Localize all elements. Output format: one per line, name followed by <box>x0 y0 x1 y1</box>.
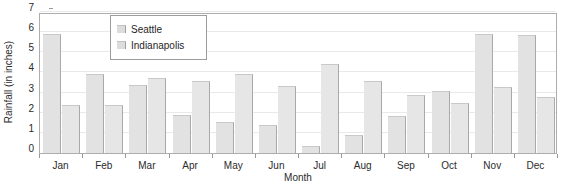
x-tick-label-jun: Jun <box>268 160 284 172</box>
bar-jun-seattle <box>259 125 277 153</box>
bar-jun-indianapolis <box>278 86 296 153</box>
legend-item-seattle: Seattle <box>117 21 200 37</box>
x-tick-label-sep: Sep <box>397 160 415 172</box>
legend-label-seattle: Seattle <box>131 24 162 35</box>
bar-sep-seattle <box>388 116 406 153</box>
bar-may-indianapolis <box>235 74 253 153</box>
x-tick-mark <box>125 154 126 158</box>
bar-oct-indianapolis <box>451 103 469 153</box>
x-tick-mark <box>514 154 515 158</box>
bar-jul-seattle <box>302 146 320 153</box>
month-group <box>385 14 428 153</box>
month-group <box>342 14 385 153</box>
month-group <box>515 14 558 153</box>
month-group <box>299 14 342 153</box>
y-tick-label: 6 <box>14 23 34 33</box>
gridline <box>40 11 556 12</box>
y-tick-label: 4 <box>14 63 34 73</box>
legend-label-indianapolis: Indianapolis <box>131 40 184 51</box>
legend-swatch-icon <box>117 25 126 33</box>
y-tick-label: 0 <box>14 144 34 154</box>
y-tick-label: 7 <box>14 3 34 13</box>
bar-aug-indianapolis <box>364 81 382 154</box>
y-tick-label: 2 <box>14 104 34 114</box>
x-tick-mark <box>471 154 472 158</box>
bar-apr-indianapolis <box>192 81 210 154</box>
month-group <box>472 14 515 153</box>
x-tick-label-jan: Jan <box>53 160 69 172</box>
x-tick-label-mar: Mar <box>138 160 155 172</box>
x-axis-title: Month <box>39 172 557 184</box>
x-tick-label-oct: Oct <box>441 160 457 172</box>
bar-sep-indianapolis <box>407 95 425 153</box>
y-tick-label: 3 <box>14 84 34 94</box>
x-tick-label-dec: Dec <box>527 160 545 172</box>
bar-oct-seattle <box>432 91 450 153</box>
y-tick-label: 5 <box>14 43 34 53</box>
month-group <box>213 14 256 153</box>
y-axis-ticks: 01234567 <box>14 8 34 154</box>
bar-feb-seattle <box>86 74 104 153</box>
x-tick-mark <box>341 154 342 158</box>
rainfall-bar-chart: Rainfall (in inches) 01234567 JanFebMarA… <box>0 0 564 186</box>
bar-mar-indianapolis <box>148 78 166 153</box>
x-tick-label-jul: Jul <box>313 160 326 172</box>
x-tick-label-aug: Aug <box>354 160 372 172</box>
x-tick-label-feb: Feb <box>95 160 112 172</box>
bar-dec-indianapolis <box>537 97 555 153</box>
legend-item-indianapolis: Indianapolis <box>117 37 200 53</box>
bar-mar-seattle <box>129 85 147 153</box>
bar-apr-seattle <box>173 115 191 153</box>
bar-feb-indianapolis <box>105 105 123 153</box>
x-tick-mark <box>557 154 558 158</box>
bar-aug-seattle <box>345 135 363 153</box>
bar-jan-indianapolis <box>62 105 80 153</box>
x-tick-mark <box>298 154 299 158</box>
bar-nov-seattle <box>475 34 493 153</box>
x-tick-mark <box>82 154 83 158</box>
x-tick-label-nov: Nov <box>483 160 501 172</box>
x-tick-mark <box>169 154 170 158</box>
legend-swatch-icon <box>117 41 126 49</box>
month-group <box>256 14 299 153</box>
x-tick-mark <box>384 154 385 158</box>
x-tick-mark <box>39 154 40 158</box>
legend: Seattle Indianapolis <box>110 15 207 60</box>
x-tick-label-apr: Apr <box>182 160 198 172</box>
y-tick-mark <box>49 8 53 9</box>
bar-may-seattle <box>216 122 234 153</box>
bar-nov-indianapolis <box>494 87 512 153</box>
month-group <box>429 14 472 153</box>
y-tick-label: 1 <box>14 124 34 134</box>
x-tick-mark <box>428 154 429 158</box>
month-group <box>40 14 83 153</box>
bar-jul-indianapolis <box>321 64 339 153</box>
x-tick-label-may: May <box>224 160 243 172</box>
x-tick-mark <box>255 154 256 158</box>
bar-dec-seattle <box>518 35 536 153</box>
x-tick-mark <box>212 154 213 158</box>
bar-jan-seattle <box>43 34 61 153</box>
